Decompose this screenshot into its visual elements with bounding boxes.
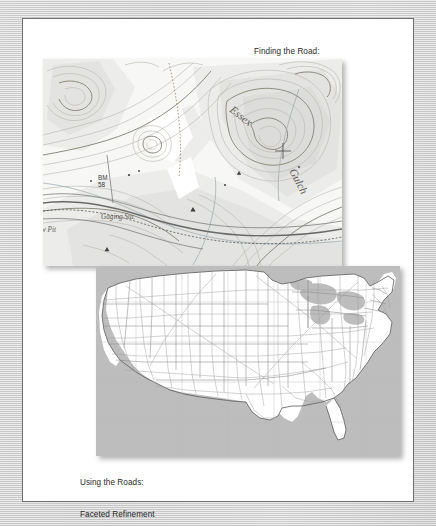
label-gravel-pit: w Pit <box>43 226 57 234</box>
label-gaging-station: Gaging Sta. <box>101 213 136 221</box>
caption-bottom-line-2: Faceted Refinement <box>80 510 155 521</box>
united-states-map-figure[interactable] <box>96 266 400 456</box>
label-benchmark: BM <box>98 174 108 181</box>
label-benchmark-elevation: 58 <box>98 181 106 188</box>
figure-caption-bottom: Using the Roads: Faceted Refinement <box>80 457 155 526</box>
caption-top-line-1: Finding the Road: <box>254 47 336 58</box>
topographic-map-graphic: Essex Gulch BM 58 Gaging Sta. w Pit <box>43 59 342 266</box>
topographic-map-figure[interactable]: Essex Gulch BM 58 Gaging Sta. w Pit <box>43 59 342 266</box>
caption-bottom-line-1: Using the Roads: <box>80 478 155 489</box>
united-states-map-graphic <box>96 266 400 456</box>
document-page: Finding the Road: Query Disambiguation <box>22 18 414 502</box>
